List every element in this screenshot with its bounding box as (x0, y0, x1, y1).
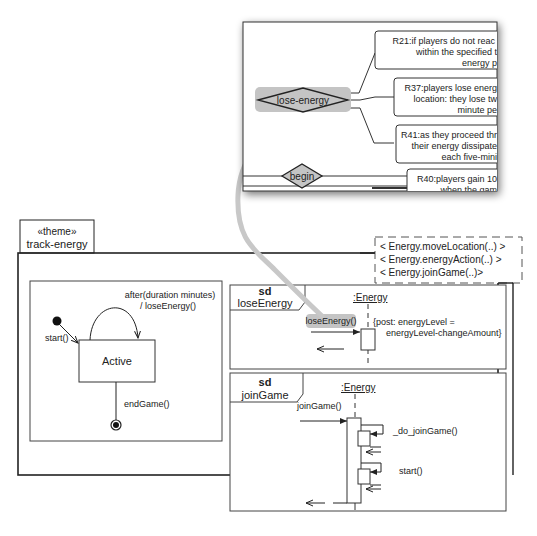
rule-text: R41:as they proceed thr (401, 130, 497, 140)
rule-text: energy p (462, 58, 497, 68)
post-condition: {post: energyLevel = (373, 317, 455, 327)
self-transition-action: / loseEnergy() (140, 301, 196, 311)
start-transition-label: start() (45, 333, 69, 343)
theme-stereotype: «theme» (38, 226, 77, 237)
template-param: < Energy.energyAction(..) > (380, 254, 502, 265)
rule-text: minute pe (457, 105, 497, 115)
rule-text: their energy dissipate (411, 141, 497, 151)
sd-join-game: sd joinGame :Energy joinGame() _do_joinG… (230, 373, 506, 511)
initial-state (53, 317, 62, 326)
sd-name: joinGame (240, 389, 288, 401)
sd-lose-energy: sd loseEnergy :Energy loseEnergy() {post… (230, 285, 506, 369)
activation-bar (361, 329, 375, 350)
end-transition-label: endGame() (124, 399, 170, 409)
message-label: joinGame() (296, 401, 342, 411)
message-label: loseEnergy() (305, 316, 356, 326)
rule-text: each five-mini (441, 152, 497, 162)
nested-activation (358, 431, 370, 446)
nested-activation (358, 469, 370, 484)
requirements-popup: R21:if players do not reac within the sp… (243, 22, 517, 199)
template-param: < Energy.moveLocation(..) > (380, 241, 506, 252)
lifeline-energy: :Energy (353, 292, 387, 303)
sd-name: loseEnergy (237, 297, 293, 309)
state-active-label: Active (102, 355, 132, 367)
template-param: < Energy.joinGame(..)> (380, 267, 483, 278)
sd-keyword: sd (259, 376, 272, 388)
rule-text: R21:if players do not reac (392, 36, 495, 46)
sd-keyword: sd (259, 285, 272, 297)
decision-label: lose-energy (277, 95, 329, 106)
theme-name: track-energy (26, 238, 88, 250)
state-machine: start() Active after(duration minutes) /… (30, 281, 222, 441)
rule-text: within the specified t (415, 47, 498, 57)
post-condition-cont: energyLevel-changeAmount} (386, 328, 502, 338)
lifeline-energy: :Energy (341, 382, 375, 393)
self-call-label: start() (399, 466, 423, 476)
self-transition-label: after(duration minutes) (125, 290, 216, 300)
diagram-canvas: «theme» track-energy < Energy.moveLocati… (0, 0, 537, 536)
rule-text: R40:players gain 10 (417, 174, 497, 184)
rule-text: location: they lose tw (413, 94, 497, 104)
rule-text: R37:players lose energ (404, 83, 497, 93)
rule-text: when the gam (439, 185, 497, 195)
decision-label: begin (290, 171, 314, 182)
self-call-label: _do_joinGame() (392, 426, 458, 436)
